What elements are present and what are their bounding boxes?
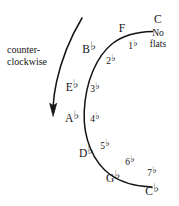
key-label-g-flat: G♭: [106, 169, 120, 184]
flat-count-label-6: 6♭: [125, 154, 134, 168]
key-label-a-flat: A♭: [65, 109, 79, 124]
counter-clockwise-label: counter- clockwise: [7, 44, 47, 68]
key-label-c: C: [154, 10, 162, 25]
key-letter: F: [119, 22, 125, 34]
key-accidental: ♭: [114, 168, 120, 182]
flat-symbol-icon: ♭: [105, 137, 109, 148]
flat-symbol-icon: ♭: [152, 164, 156, 175]
key-letter: C: [154, 13, 162, 25]
key-letter: B: [82, 43, 90, 55]
flat-count-label-none: No flats: [150, 28, 166, 50]
flat-count-none-line2: flats: [150, 39, 166, 50]
counter-clockwise-label-line1: counter-: [7, 44, 47, 56]
counter-clockwise-arrow-icon: [50, 18, 82, 117]
flat-count-label-7: 7♭: [147, 165, 156, 179]
key-letter: C: [145, 185, 153, 197]
key-accidental: ♭: [73, 108, 79, 122]
key-letter: E: [66, 81, 73, 93]
key-accidental: ♭: [87, 143, 93, 157]
key-label-c-flat: C♭: [145, 182, 158, 197]
key-accidental: ♭: [73, 77, 79, 91]
flat-count-label-2: 2♭: [106, 53, 115, 67]
key-accidental: ♭: [90, 39, 96, 53]
flat-symbol-icon: ♭: [95, 110, 99, 121]
key-letter: G: [106, 172, 114, 184]
key-label-f: F: [119, 19, 126, 34]
key-letter: D: [79, 147, 87, 159]
counter-clockwise-label-line2: clockwise: [7, 56, 47, 68]
key-label-e-flat: E♭: [66, 78, 79, 93]
flat-symbol-icon: ♭: [111, 52, 115, 63]
circle-of-fifths-figure: counter- clockwise C F B♭ E♭ A♭ D♭ G♭ C♭…: [0, 0, 179, 206]
key-letter: A: [65, 112, 73, 124]
flat-symbol-icon: ♭: [130, 153, 134, 164]
key-accidental: ♭: [153, 181, 159, 195]
flat-count-none-line1: No: [150, 28, 166, 39]
flat-count-label-3: 3♭: [90, 81, 99, 95]
flat-count-label-1: 1♭: [128, 38, 137, 52]
flat-symbol-icon: ♭: [133, 37, 137, 48]
flat-count-label-4: 4♭: [90, 111, 99, 125]
flat-symbol-icon: ♭: [95, 80, 99, 91]
flat-count-label-5: 5♭: [100, 138, 109, 152]
key-label-d-flat: D♭: [79, 144, 93, 159]
key-label-b-flat: B♭: [82, 40, 95, 55]
